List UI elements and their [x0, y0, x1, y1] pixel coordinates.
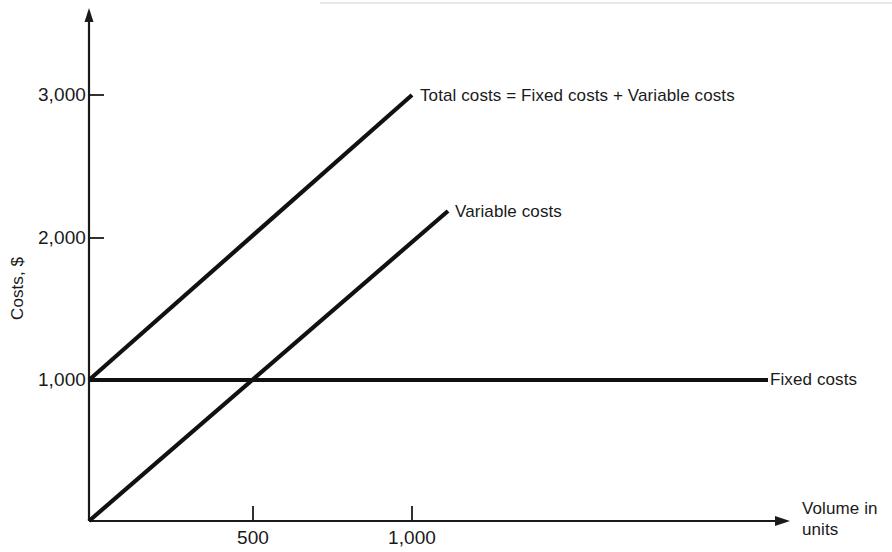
x-tick-label-500: 500 [213, 527, 293, 549]
series-line-total-costs [89, 95, 412, 380]
x-axis-arrowhead-icon [775, 516, 790, 526]
series-label-variable-costs: Variable costs [455, 202, 562, 222]
y-tick-label-3000: 3,000 [24, 84, 86, 106]
y-axis-title: Costs, $ [8, 257, 28, 320]
series-label-fixed-costs: Fixed costs [770, 370, 857, 390]
y-tick-label-1000: 1,000 [24, 369, 86, 391]
x-axis-title: Volume in units [802, 498, 878, 541]
x-tick-label-1000: 1,000 [372, 527, 452, 549]
chart-canvas [0, 0, 892, 552]
y-tick-label-2000: 2,000 [24, 227, 86, 249]
series-line-variable-costs [89, 211, 448, 521]
series-label-total-costs: Total costs = Fixed costs + Variable cos… [420, 86, 735, 106]
y-axis-arrowhead-icon [85, 8, 94, 22]
cost-volume-chart: 3,000 2,000 1,000 500 1,000 Costs, $ Vol… [0, 0, 892, 552]
